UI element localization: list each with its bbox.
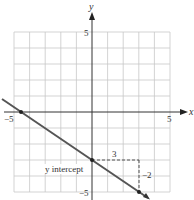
y-axis-arrow-icon (89, 12, 95, 20)
y-intercept-point (90, 158, 94, 162)
x-intercept-point (19, 110, 23, 114)
run-label: 3 (112, 149, 117, 159)
x-tick-min-label: −5 (4, 114, 14, 124)
x-axis-label: x (188, 106, 194, 117)
y-tick-min-label: −5 (79, 188, 89, 198)
graph-line (2, 99, 148, 198)
x-tick-max-label: 5 (167, 114, 172, 124)
rise-end-point (137, 190, 141, 194)
coordinate-graph: x y −5 5 5 −5 y intercept 3 −2 (0, 0, 194, 200)
y-intercept-label: y intercept (45, 164, 84, 174)
line-arrow-icon (143, 193, 150, 200)
y-tick-max-label: 5 (84, 28, 89, 38)
x-axis-arrow-icon (180, 109, 188, 115)
rise-label: −2 (142, 170, 152, 180)
axes (4, 18, 182, 200)
y-axis-label: y (88, 1, 94, 12)
